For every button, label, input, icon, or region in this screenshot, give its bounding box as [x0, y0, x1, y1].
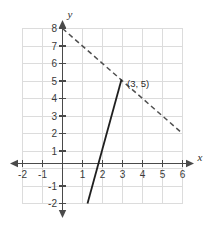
y-tick-1: 1 — [51, 146, 57, 157]
x-tick-3: 3 — [120, 169, 126, 180]
y-tick-5: 5 — [51, 76, 57, 87]
x-tick-5: 5 — [160, 169, 166, 180]
y-axis-label: y — [67, 8, 73, 20]
y-tick-2: 2 — [51, 128, 57, 139]
y-tick-8: 8 — [51, 23, 57, 34]
y-axis — [59, 20, 66, 218]
x-axis-left-arrow — [10, 160, 18, 167]
y-axis-up-arrow — [59, 20, 66, 28]
y-tick-3: 3 — [51, 111, 57, 122]
graph-figure: 8 7 6 5 4 3 2 1 -1 -2 -2 -1 1 2 3 4 5 6 … — [0, 0, 210, 225]
x-tick-2: 2 — [100, 169, 106, 180]
x-tick-4: 4 — [140, 169, 146, 180]
x-tick-minus-2: -2 — [18, 169, 27, 180]
x-tick-6: 6 — [180, 169, 186, 180]
y-tick-minus-1: -1 — [48, 181, 57, 192]
intersection-point-label: (3, 5) — [127, 78, 149, 89]
y-tick-minus-2: -2 — [48, 198, 57, 209]
coordinate-plane-plot: 8 7 6 5 4 3 2 1 -1 -2 -2 -1 1 2 3 4 5 6 … — [0, 0, 210, 225]
x-tick-labels: -2 -1 1 2 3 4 5 6 — [18, 169, 186, 180]
y-tick-7: 7 — [51, 41, 57, 52]
y-tick-6: 6 — [51, 58, 57, 69]
y-axis-down-arrow — [59, 210, 66, 218]
x-axis-label: x — [197, 151, 203, 163]
x-tick-1: 1 — [80, 169, 86, 180]
x-axis-right-arrow — [186, 160, 194, 167]
y-tick-4: 4 — [51, 93, 57, 104]
x-tick-minus-1: -1 — [38, 169, 47, 180]
